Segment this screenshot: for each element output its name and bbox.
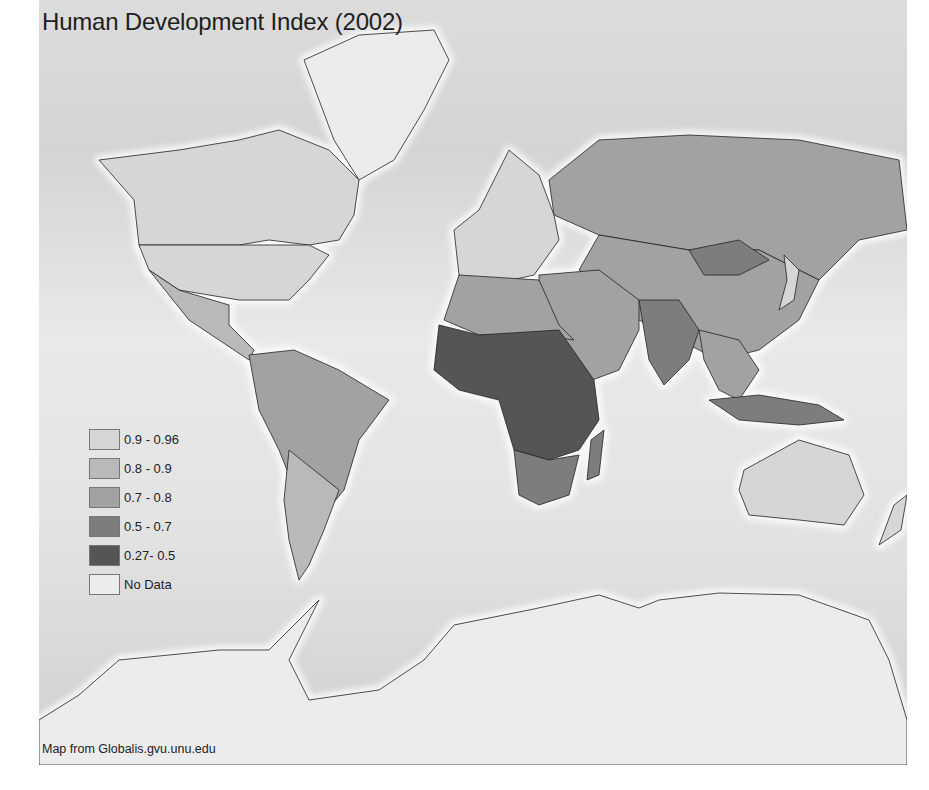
legend-swatch (89, 545, 120, 566)
legend-item: 0.8 - 0.9 (89, 454, 179, 483)
legend-item: No Data (89, 570, 179, 599)
legend-swatch (89, 429, 120, 450)
legend-item: 0.27- 0.5 (89, 541, 179, 570)
legend-label: 0.8 - 0.9 (124, 461, 172, 476)
legend-swatch (89, 458, 120, 479)
map-frame: Human Development Index (2002) 0.9 - 0.9… (39, 0, 907, 765)
legend-label: No Data (124, 577, 172, 592)
legend-swatch (89, 516, 120, 537)
legend-item: 0.5 - 0.7 (89, 512, 179, 541)
map-title: Human Development Index (2002) (42, 8, 403, 36)
map-credit: Map from Globalis.gvu.unu.edu (42, 742, 216, 756)
region-indonesia-png (709, 395, 844, 425)
legend-item: 0.7 - 0.8 (89, 483, 179, 512)
legend-label: 0.7 - 0.8 (124, 490, 172, 505)
legend-label: 0.27- 0.5 (124, 548, 175, 563)
legend-swatch (89, 487, 120, 508)
region-canada (99, 130, 359, 245)
legend-label: 0.5 - 0.7 (124, 519, 172, 534)
legend-swatch (89, 574, 120, 595)
legend-item: 0.9 - 0.96 (89, 425, 179, 454)
world-map (39, 0, 907, 765)
legend-label: 0.9 - 0.96 (124, 432, 179, 447)
legend: 0.9 - 0.960.8 - 0.90.7 - 0.80.5 - 0.70.2… (89, 425, 179, 599)
